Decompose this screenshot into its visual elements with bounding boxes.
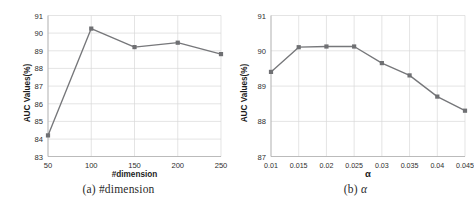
x-tick-label: 200 — [171, 161, 184, 170]
x-tick-label: 0.035 — [401, 162, 419, 170]
chart-svg-a: AUC Values(%) 91 90 89 88 87 86 85 84 83 — [0, 0, 237, 183]
figure-row: AUC Values(%) 91 90 89 88 87 86 85 84 83 — [0, 0, 474, 217]
x-tick-label: 0.045 — [456, 162, 474, 170]
caption-b-text: α — [361, 183, 367, 195]
x-tick-label: 250 — [215, 161, 228, 170]
y-tick-label: 91 — [35, 12, 43, 21]
horizontal-gridlines-b — [271, 16, 465, 157]
x-tick-label: 0.03 — [375, 162, 389, 170]
chart-svg-b: AUC Values(%) 91 90 89 88 87 — [237, 0, 474, 183]
y-tick-label: 90 — [258, 47, 266, 56]
y-tick-labels-b: 91 90 89 88 87 — [258, 12, 266, 162]
x-tick-label: 100 — [85, 161, 98, 170]
y-tick-label: 87 — [258, 153, 266, 162]
y-tick-label: 83 — [35, 153, 43, 162]
x-tick-label: 150 — [128, 161, 141, 170]
chart-panel-b: AUC Values(%) 91 90 89 88 87 — [237, 0, 474, 217]
caption-a-prefix: (a) — [82, 183, 95, 195]
x-axis-title-b: α — [365, 168, 371, 179]
y-tick-label: 88 — [258, 117, 266, 126]
y-tick-label: 88 — [35, 64, 43, 73]
caption-a: (a) #dimension — [0, 183, 237, 195]
y-tick-labels-a: 91 90 89 88 87 86 85 84 83 — [35, 12, 43, 162]
chart-panel-a: AUC Values(%) 91 90 89 88 87 86 85 84 83 — [0, 0, 237, 217]
y-tick-label: 84 — [35, 135, 43, 144]
caption-a-text: #dimension — [99, 183, 155, 195]
x-tick-label: 0.01 — [264, 162, 278, 170]
y-tick-label: 91 — [258, 12, 266, 21]
y-tick-label: 89 — [258, 82, 266, 91]
y-tick-label: 87 — [35, 82, 43, 91]
x-tick-label: 0.04 — [430, 162, 444, 170]
caption-b-prefix: (b) — [344, 183, 358, 195]
y-axis-title-b: AUC Values(%) — [240, 63, 249, 122]
x-tick-label: 0.02 — [320, 162, 334, 170]
plot-area-a: AUC Values(%) 91 90 89 88 87 86 85 84 83 — [0, 0, 237, 183]
x-tick-label: 0.015 — [290, 162, 308, 170]
y-tick-label: 90 — [35, 29, 43, 38]
data-line-b — [271, 47, 465, 111]
x-tick-labels-a: 50 100 150 200 250 — [44, 161, 228, 170]
y-axis-title-a: AUC Values(%) — [23, 63, 32, 122]
y-tick-label: 86 — [35, 100, 43, 109]
y-tick-label: 89 — [35, 47, 43, 56]
x-tick-label: 0.025 — [345, 162, 363, 170]
y-tick-label: 85 — [35, 117, 43, 126]
caption-b: (b) α — [237, 183, 474, 195]
x-axis-title-a: #dimension — [112, 170, 158, 179]
x-tick-label: 50 — [44, 161, 52, 170]
plot-area-b: AUC Values(%) 91 90 89 88 87 — [237, 0, 474, 183]
